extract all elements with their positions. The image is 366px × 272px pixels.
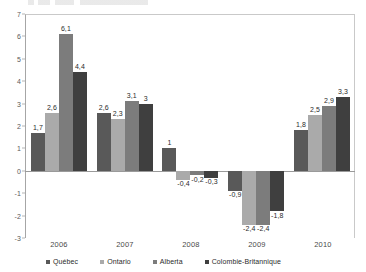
- legend-item-alberta[interactable]: Alberta: [153, 258, 183, 265]
- bar-slot: -2,4: [242, 14, 256, 238]
- bar[interactable]: [204, 171, 218, 178]
- bars: -0,9-2,4-2,4-1,8: [223, 14, 289, 238]
- y-axis-tick-label: 3: [17, 100, 21, 107]
- legend-item-ontario[interactable]: Ontario: [100, 258, 131, 265]
- bar-slot: 1: [162, 14, 176, 238]
- bar-slot: -0,2: [190, 14, 204, 238]
- bar[interactable]: [162, 148, 176, 170]
- bar-slot: 3,3: [336, 14, 350, 238]
- legend-label: Ontario: [107, 258, 131, 265]
- bar-slot: -2,4: [256, 14, 270, 238]
- bar-slot: -0,3: [204, 14, 218, 238]
- bar-slot: 2,3: [111, 14, 125, 238]
- y-axis-tick-label: 4: [17, 78, 21, 85]
- cropped-title-remnant: [28, 0, 148, 5]
- bar-value-label: -0,3: [205, 178, 217, 185]
- bar-slot: -0,9: [228, 14, 242, 238]
- bar[interactable]: [322, 106, 336, 171]
- bar[interactable]: [97, 113, 111, 171]
- bar[interactable]: [31, 133, 45, 171]
- bar-slot: 2,9: [322, 14, 336, 238]
- y-axis-tick-label: 5: [17, 55, 21, 62]
- bar[interactable]: [308, 115, 322, 171]
- bars: 1-0,4-0,2-0,3: [158, 14, 224, 238]
- bar[interactable]: [270, 171, 284, 211]
- legend-swatch-icon: [205, 260, 209, 264]
- legend-label: Alberta: [160, 258, 183, 265]
- chart-legend: QuébecOntarioAlbertaColombie-Britannique: [46, 258, 346, 265]
- y-axis-tick-label: -1: [15, 190, 21, 197]
- bar-chart: 76543210-1-2-3 1,72,66,14,42,62,33,131-0…: [0, 0, 366, 272]
- x-axis-tick-label-2007: 2007: [92, 240, 158, 249]
- bar-slot: 6,1: [59, 14, 73, 238]
- y-axis-tick-label: -3: [15, 235, 21, 242]
- y-axis-tick-label: 7: [17, 11, 21, 18]
- bars: 2,62,33,13: [92, 14, 158, 238]
- bar[interactable]: [176, 171, 190, 180]
- bar-value-label: -2,4: [257, 225, 269, 232]
- bar[interactable]: [228, 171, 242, 191]
- bar-value-label: -0,9: [229, 191, 241, 198]
- bar-slot: 3,1: [125, 14, 139, 238]
- bar-group-2006: 1,72,66,14,4: [26, 14, 92, 238]
- bar-value-label: 6,1: [61, 25, 71, 32]
- bar-groups: 1,72,66,14,42,62,33,131-0,4-0,2-0,3-0,9-…: [26, 14, 355, 238]
- legend-item-colombie-britannique[interactable]: Colombie-Britannique: [205, 258, 281, 265]
- bar-slot: -0,4: [176, 14, 190, 238]
- bar[interactable]: [45, 113, 59, 171]
- bar-slot: 1,8: [294, 14, 308, 238]
- bar-value-label: 4,4: [75, 63, 85, 70]
- bar[interactable]: [242, 171, 256, 225]
- bar-group-2010: 1,82,52,93,3: [289, 14, 355, 238]
- bar-value-label: 1,8: [296, 121, 306, 128]
- legend-item-qu-bec[interactable]: Québec: [46, 258, 78, 265]
- bar[interactable]: [336, 97, 350, 171]
- bar[interactable]: [294, 130, 308, 170]
- bar-value-label: -0,4: [177, 180, 189, 187]
- x-axis-tick-label-2006: 2006: [26, 240, 92, 249]
- bar-slot: 3: [139, 14, 153, 238]
- bar-value-label: 2,6: [47, 104, 57, 111]
- x-axis-tick-label-2010: 2010: [290, 240, 356, 249]
- bar-value-label: 1: [167, 139, 171, 146]
- bar-slot: 1,7: [31, 14, 45, 238]
- bar-value-label: 2,9: [324, 97, 334, 104]
- bar-group-2007: 2,62,33,13: [92, 14, 158, 238]
- bar-value-label: -0,2: [191, 176, 203, 183]
- y-axis-tick-label: 0: [17, 167, 21, 174]
- legend-swatch-icon: [153, 260, 157, 264]
- bar-group-2008: 1-0,4-0,2-0,3: [158, 14, 224, 238]
- bar-value-label: 2,3: [113, 110, 123, 117]
- bar-value-label: 1,7: [33, 124, 43, 131]
- y-axis-tick-label: 6: [17, 33, 21, 40]
- bar-group-2009: -0,9-2,4-2,4-1,8: [223, 14, 289, 238]
- bar[interactable]: [111, 119, 125, 171]
- legend-label: Québec: [53, 258, 78, 265]
- plot-area: 1,72,66,14,42,62,33,131-0,4-0,2-0,3-0,9-…: [25, 14, 355, 238]
- bar[interactable]: [139, 104, 153, 171]
- bar-value-label: 2,6: [99, 104, 109, 111]
- bar[interactable]: [125, 101, 139, 170]
- bar-slot: -1,8: [270, 14, 284, 238]
- bar-value-label: -1,8: [271, 212, 283, 219]
- bar-value-label: -2,4: [243, 225, 255, 232]
- bar-slot: 2,5: [308, 14, 322, 238]
- bar-slot: 4,4: [73, 14, 87, 238]
- y-axis-tick-label: -2: [15, 212, 21, 219]
- bar[interactable]: [190, 171, 204, 175]
- legend-swatch-icon: [100, 260, 104, 264]
- bar[interactable]: [73, 72, 87, 171]
- bar[interactable]: [256, 171, 270, 225]
- bar-value-label: 2,5: [310, 106, 320, 113]
- y-axis: 76543210-1-2-3: [0, 14, 25, 238]
- y-axis-tick-label: 1: [17, 145, 21, 152]
- x-axis: 20062007200820092010: [26, 240, 356, 249]
- bar[interactable]: [59, 34, 73, 171]
- bar-value-label: 3: [144, 95, 148, 102]
- legend-swatch-icon: [46, 260, 50, 264]
- x-axis-tick-label-2008: 2008: [158, 240, 224, 249]
- x-axis-tick-label-2009: 2009: [224, 240, 290, 249]
- bars: 1,82,52,93,3: [289, 14, 355, 238]
- bar-value-label: 3,3: [338, 88, 348, 95]
- legend-label: Colombie-Britannique: [212, 258, 281, 265]
